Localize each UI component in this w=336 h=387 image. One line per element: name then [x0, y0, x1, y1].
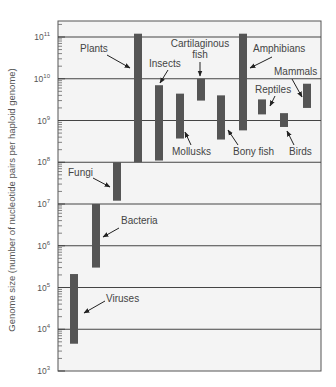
- label-mammals: Mammals: [274, 66, 317, 77]
- bar-plants: [134, 34, 142, 163]
- y-tick-label: 1011: [34, 31, 50, 42]
- label-cartilaginous-fish-2: fish: [192, 49, 208, 60]
- label-amphibians: Amphibians: [253, 43, 305, 54]
- bar-mammals: [303, 84, 311, 108]
- bar-birds: [280, 113, 288, 127]
- bar-cartilaginous-fish: [197, 79, 205, 101]
- bar-reptiles: [258, 99, 266, 114]
- y-tick-label: 105: [37, 282, 50, 293]
- bar-insects: [155, 85, 163, 160]
- label-mollusks: Mollusks: [172, 146, 211, 157]
- y-tick-label: 1010: [34, 73, 51, 84]
- y-tick-label: 107: [37, 198, 50, 209]
- bar-mollusks: [176, 94, 184, 139]
- label-insects: Insects: [149, 58, 181, 69]
- label-viruses: Viruses: [106, 293, 139, 304]
- bar-viruses: [70, 274, 78, 344]
- y-axis-label: Genome size (number of nucleotide pairs …: [6, 68, 17, 332]
- label-fungi: Fungi: [68, 167, 93, 178]
- bar-fungi: [113, 162, 121, 200]
- y-tick-labels: 10310410510610710810910101011: [34, 31, 51, 376]
- label-bacteria: Bacteria: [121, 215, 158, 226]
- label-reptiles: Reptiles: [255, 84, 291, 95]
- label-cartilaginous-fish-1: Cartilaginous: [171, 38, 229, 49]
- y-tick-label: 109: [37, 115, 50, 126]
- label-plants: Plants: [80, 43, 108, 54]
- bar-amphibians: [239, 34, 247, 131]
- bar-bacteria: [92, 204, 100, 268]
- y-tick-label: 106: [37, 240, 50, 251]
- y-tick-label: 103: [37, 365, 50, 376]
- y-tick-label: 108: [37, 156, 50, 167]
- label-bony-fish: Bony fish: [233, 146, 274, 157]
- label-birds: Birds: [289, 146, 312, 157]
- genome-size-chart: 10310410510610710810910101011 Genome siz…: [0, 0, 336, 387]
- bar-bony-fish: [217, 95, 225, 139]
- y-tick-label: 104: [37, 323, 50, 334]
